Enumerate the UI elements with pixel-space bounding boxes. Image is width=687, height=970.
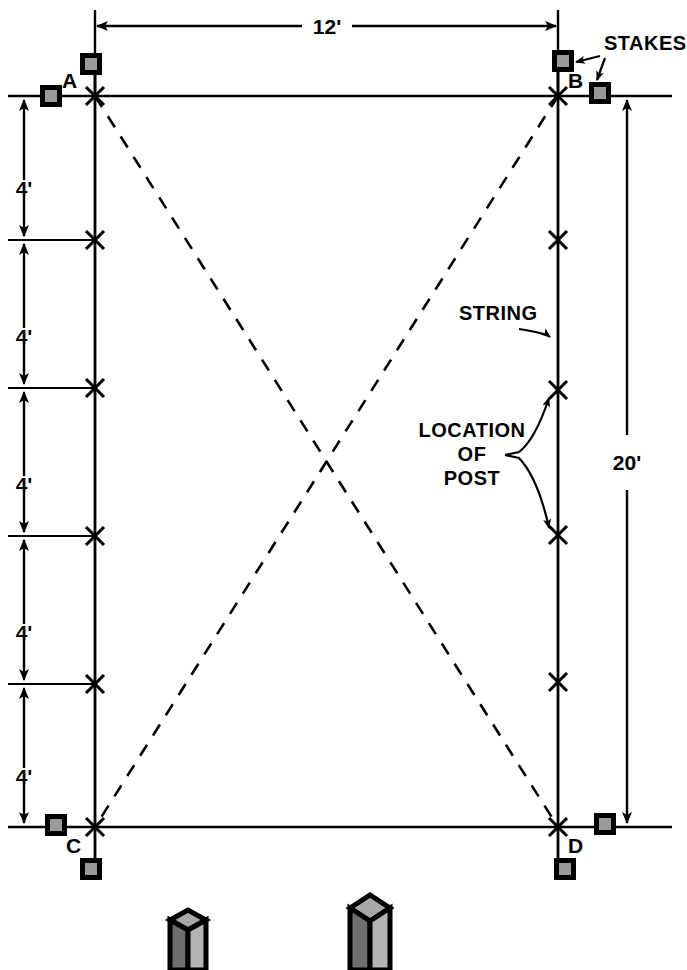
corner-label-b: B bbox=[568, 69, 583, 92]
stakes-callout: STAKES bbox=[576, 32, 687, 80]
short-post-right-face bbox=[188, 920, 206, 970]
corner-label-c: C bbox=[66, 834, 81, 857]
stakes-leader-1 bbox=[576, 56, 600, 62]
corner-labels: A B C D bbox=[62, 69, 583, 857]
height-dimension-label: 20' bbox=[613, 451, 641, 474]
post-label-line1: LOCATION bbox=[419, 419, 526, 441]
segment-label-4: 4' bbox=[16, 621, 33, 644]
stake-a-top bbox=[80, 53, 102, 75]
layout-diagram: 12' 4 bbox=[0, 0, 687, 970]
tall-post-left-face bbox=[350, 908, 370, 970]
stake-c-bottom bbox=[80, 858, 102, 880]
height-dimension: 20' bbox=[613, 100, 641, 823]
figure-canvas: 12' 4 bbox=[0, 0, 687, 970]
diagonal-check-lines bbox=[95, 96, 558, 827]
height-segment-dimensions: 4' 4' 4' 4' 4' bbox=[8, 96, 95, 827]
post-illustrations bbox=[170, 895, 390, 970]
stake-d-bottom bbox=[554, 858, 576, 880]
post-illustration-short bbox=[170, 910, 206, 970]
post-leader-lower bbox=[505, 455, 549, 528]
segment-label-2: 4' bbox=[16, 325, 33, 348]
width-dimension: 12' bbox=[95, 10, 558, 100]
segment-label-3: 4' bbox=[16, 473, 33, 496]
stake-d-right bbox=[594, 813, 616, 835]
stake-c-left bbox=[45, 814, 67, 836]
stakes-leader-2 bbox=[597, 58, 605, 80]
post-illustration-tall bbox=[350, 895, 390, 970]
stake-b-right bbox=[589, 82, 611, 104]
string-leader bbox=[519, 329, 550, 337]
segment-label-1: 4' bbox=[16, 177, 33, 200]
string-callout: STRING bbox=[459, 302, 550, 337]
string-label: STRING bbox=[459, 302, 538, 324]
layout-lines bbox=[8, 58, 672, 880]
corner-label-a: A bbox=[62, 69, 77, 92]
segment-label-5: 4' bbox=[16, 765, 33, 788]
tall-post-right-face bbox=[370, 908, 390, 970]
corner-label-d: D bbox=[568, 834, 583, 857]
post-label-line2: OF bbox=[458, 443, 487, 465]
post-location-callout: LOCATION OF POST bbox=[419, 398, 549, 528]
post-label-line3: POST bbox=[444, 467, 500, 489]
stakes-label: STAKES bbox=[604, 32, 687, 54]
short-post-left-face bbox=[170, 920, 188, 970]
width-dimension-label: 12' bbox=[313, 15, 341, 38]
stake-a-left bbox=[40, 85, 62, 107]
